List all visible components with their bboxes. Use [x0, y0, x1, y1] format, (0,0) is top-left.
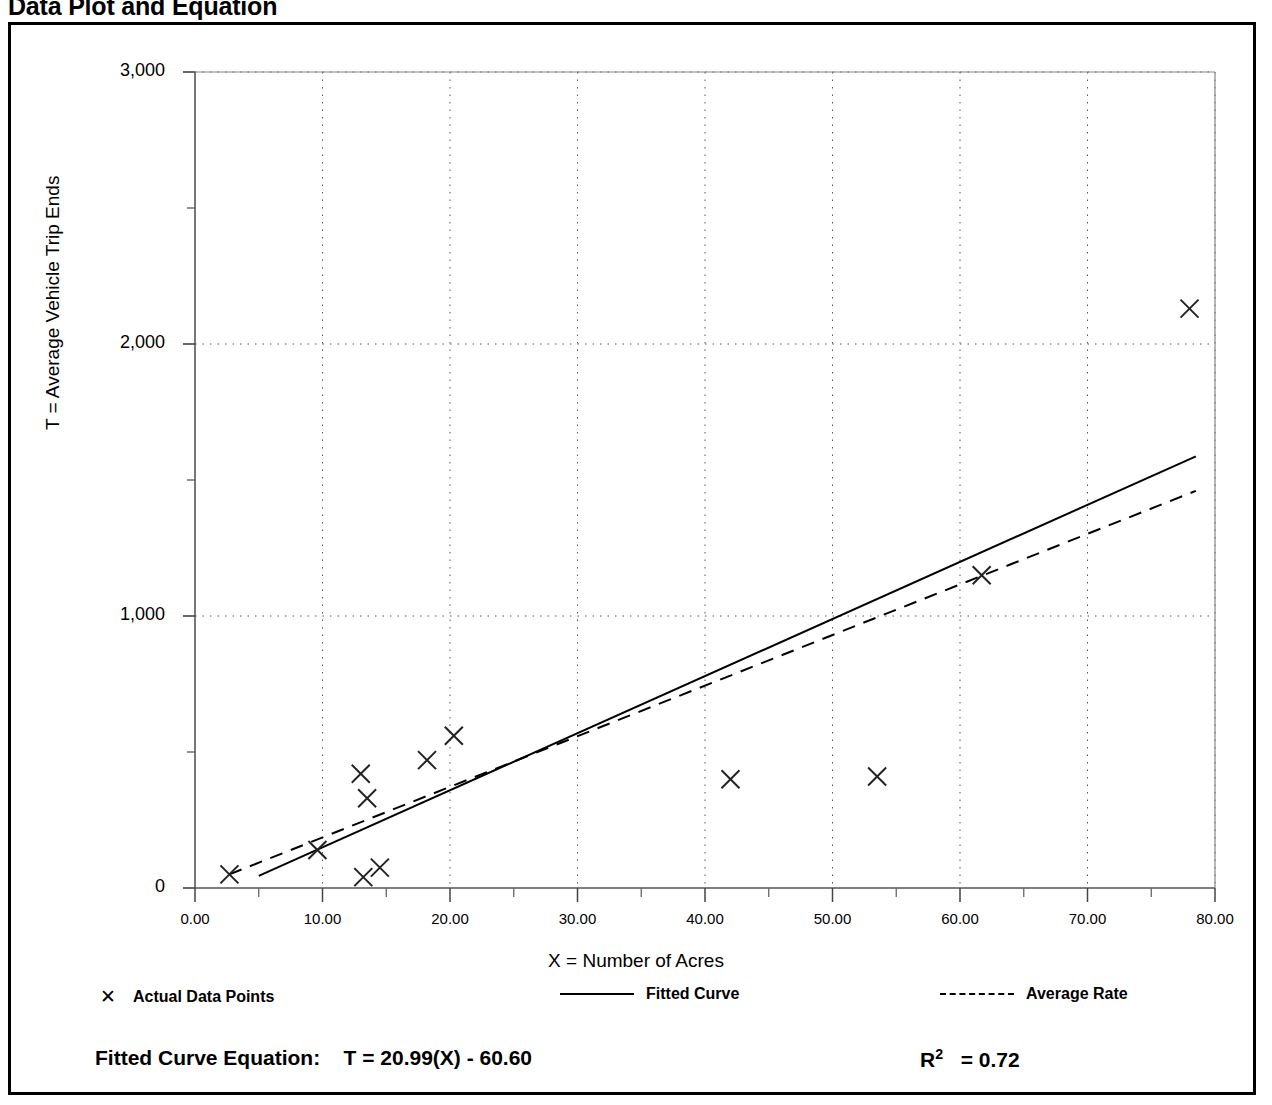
cross-marker-icon: ✕: [95, 985, 121, 1008]
chart-canvas: [0, 0, 1272, 1105]
chart-plot-area: 01,0002,0003,000 0.0010.0020.0030.0040.0…: [0, 0, 1272, 1105]
series-actual-data-points: [220, 300, 1198, 886]
equation-row: Fitted Curve Equation: T = 20.99(X) - 60…: [0, 1046, 1272, 1080]
x-axis-tick-label: 40.00: [670, 910, 740, 927]
legend-item-fitted-curve: Fitted Curve: [560, 985, 739, 1003]
series-average-rate-line: [229, 491, 1195, 874]
legend-item-average-rate: Average Rate: [940, 985, 1128, 1003]
x-axis-tick-label: 80.00: [1180, 910, 1250, 927]
y-axis-tick-label: 0: [85, 876, 165, 897]
y-axis-tick-label: 2,000: [85, 332, 165, 353]
legend-label-average-rate: Average Rate: [1026, 985, 1128, 1003]
x-axis-tick-label: 70.00: [1053, 910, 1123, 927]
legend-item-actual-data-points: ✕ Actual Data Points: [95, 985, 274, 1008]
dashed-line-icon: [940, 993, 1014, 995]
fitted-curve-equation: Fitted Curve Equation: T = 20.99(X) - 60…: [95, 1046, 532, 1070]
x-axis-tick-label: 10.00: [288, 910, 358, 927]
chart-legend: ✕ Actual Data Points Fitted Curve Averag…: [0, 985, 1272, 1015]
r-squared-value: = 0.72: [961, 1048, 1020, 1071]
r-squared-label: R: [920, 1048, 935, 1071]
x-axis-tick-label: 30.00: [543, 910, 613, 927]
axis-lines: [195, 72, 1215, 888]
x-axis-tick-label: 20.00: [415, 910, 485, 927]
solid-line-icon: [560, 993, 634, 995]
x-axis-tick-label: 50.00: [798, 910, 868, 927]
grid-lines: [195, 72, 1215, 888]
r-squared-exponent: 2: [935, 1046, 943, 1062]
legend-label-actual-data-points: Actual Data Points: [133, 988, 274, 1006]
x-axis-title: X = Number of Acres: [0, 950, 1272, 972]
x-axis-tick-label: 60.00: [925, 910, 995, 927]
y-axis-tick-label: 1,000: [85, 604, 165, 625]
y-axis-title: T = Average Vehicle Trip Ends: [42, 176, 64, 430]
r-squared-annotation: R2 = 0.72: [920, 1046, 1020, 1072]
y-axis-tick-label: 3,000: [85, 60, 165, 81]
equation-label: Fitted Curve Equation:: [95, 1046, 320, 1069]
equation-value: T = 20.99(X) - 60.60: [344, 1046, 533, 1069]
axis-ticks: [183, 72, 1215, 902]
series-fitted-curve-line: [259, 456, 1196, 876]
legend-label-fitted-curve: Fitted Curve: [646, 985, 739, 1003]
x-axis-tick-label: 0.00: [160, 910, 230, 927]
